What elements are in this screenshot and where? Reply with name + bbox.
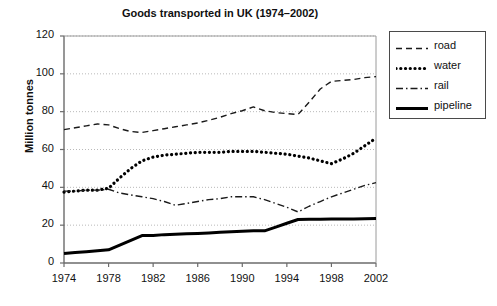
series-line-water: [64, 138, 376, 192]
y-tick-label: 100: [24, 66, 54, 78]
y-tick-label: 60: [24, 142, 54, 154]
chart-figure: Goods transported in UK (1974–2002) Mill…: [0, 0, 497, 306]
x-tick-label: 1994: [267, 272, 307, 284]
y-tick-label: 80: [24, 104, 54, 116]
x-tick-label: 1990: [222, 272, 262, 284]
legend-label: pipeline: [434, 99, 472, 111]
legend-item-rail[interactable]: rail: [390, 77, 487, 97]
x-tick-label: 2002: [356, 272, 396, 284]
legend-item-road[interactable]: road: [390, 37, 487, 57]
y-tick-label: 40: [24, 179, 54, 191]
y-tick-label: 20: [24, 217, 54, 229]
y-tick-label: 120: [24, 28, 54, 40]
chart-legend: roadwaterrailpipeline: [389, 31, 486, 119]
legend-label: road: [434, 39, 456, 51]
legend-label: water: [434, 59, 461, 71]
legend-swatch-water: [396, 66, 428, 69]
y-tick-label: 0: [24, 255, 54, 267]
legend-swatch-rail: [396, 86, 428, 89]
legend-swatch-pipeline: [396, 106, 428, 109]
legend-item-water[interactable]: water: [390, 57, 487, 77]
legend-item-pipeline[interactable]: pipeline: [390, 97, 487, 117]
series-line-pipeline: [64, 219, 376, 254]
legend-label: rail: [434, 79, 449, 91]
chart-title: Goods transported in UK (1974–2002): [64, 7, 376, 19]
x-tick-label: 1974: [44, 272, 84, 284]
legend-swatch-road: [396, 46, 428, 49]
x-tick-label: 1982: [133, 272, 173, 284]
series-line-road: [64, 77, 376, 133]
x-tick-label: 1998: [311, 272, 351, 284]
x-tick-label: 1986: [178, 272, 218, 284]
x-tick-label: 1978: [89, 272, 129, 284]
